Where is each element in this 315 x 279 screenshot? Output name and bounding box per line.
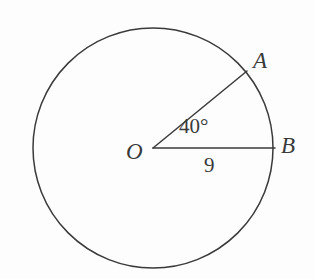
geometry-figure: O A B 40° 9 [0,0,315,279]
point-label-o: O [126,140,143,163]
circle-diagram-canvas [0,0,315,279]
point-label-b: B [281,134,295,157]
point-label-a: A [253,49,267,72]
radius-length-label: 9 [204,155,215,176]
central-angle-label: 40° [179,116,208,137]
